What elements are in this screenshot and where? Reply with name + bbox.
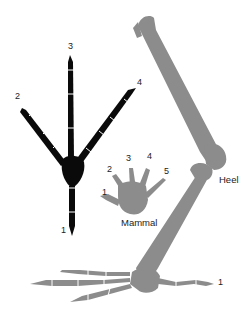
mammal-digit-1-label: 1 (102, 187, 107, 197)
toe-upper (60, 270, 130, 276)
mammal-digit-4 (138, 168, 150, 190)
foot-pad (130, 268, 160, 293)
mammal-digit-2-label: 2 (107, 164, 112, 174)
mammal-digit-5 (144, 178, 166, 198)
heel-label: Heel (219, 174, 239, 185)
toe-lower (70, 284, 132, 302)
toe-3 (68, 55, 74, 160)
bird-foot-top-view (20, 55, 136, 236)
toe-middle (30, 278, 130, 286)
mammal-digit-3 (129, 168, 136, 188)
mammal-digit-5-label: 5 (164, 166, 169, 176)
foot-ball (62, 156, 85, 188)
mammal-digit-4-label: 4 (147, 151, 152, 161)
hind-toe (158, 278, 214, 289)
mammal-digit-3-label: 3 (126, 153, 131, 163)
tibiotarsus-bone (138, 16, 219, 164)
bird-toe-2-label: 2 (15, 91, 20, 101)
toe-1 (69, 186, 75, 236)
bird-toe-1-label: 1 (61, 225, 66, 235)
bird-toe-4-label: 4 (137, 77, 142, 87)
toe-2 (20, 108, 66, 166)
bird-toe-3-label: 3 (68, 41, 73, 51)
bird-foot-anatomy-diagram: 3 2 4 1 1 2 3 4 5 Mammal Heel 1 (0, 0, 252, 316)
mammal-label: Mammal (121, 217, 157, 228)
front-toes (30, 269, 132, 302)
mammal-hand (100, 168, 166, 214)
hind-toe-label: 1 (218, 277, 223, 287)
